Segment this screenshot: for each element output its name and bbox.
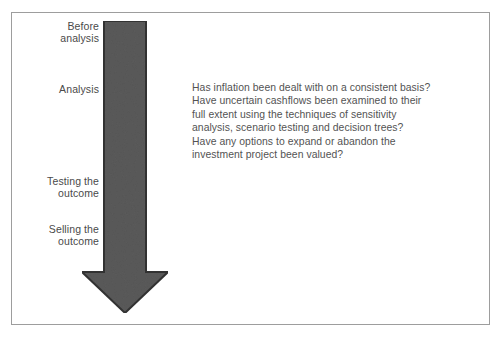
downward-process-arrow [80, 19, 170, 317]
question-line: investment project been valued? [192, 148, 442, 161]
figure-canvas: Before analysis Analysis Testing the out… [0, 0, 501, 337]
question-line: Have any options to expand or abandon th… [192, 135, 442, 148]
questions-paragraph: Has inflation been dealt with on a consi… [192, 81, 442, 161]
question-line: analysis, scenario testing and decision … [192, 121, 442, 134]
arrow-shape [82, 21, 168, 313]
downward-arrow-icon [80, 19, 170, 317]
question-line: Has inflation been dealt with on a consi… [192, 81, 442, 94]
question-line: Have uncertain cashflows been examined t… [192, 94, 442, 107]
question-line: full extent using the techniques of sens… [192, 108, 442, 121]
